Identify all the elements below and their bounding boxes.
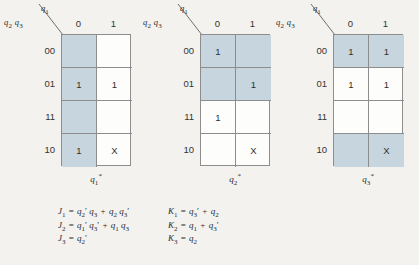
k-equation: K2 = q1 + q3′ — [168, 219, 219, 233]
column-header: 0 — [333, 18, 368, 29]
row-header: 10 — [29, 133, 55, 166]
j-equation-column: J1 = q2′ q3 + q2 q3′J2 = q1′ q3′ + q1 q3… — [58, 205, 129, 246]
axis-corner-cell: q2 q3q1 — [3, 2, 63, 34]
column-header: 1 — [368, 18, 403, 29]
k-equation-column: K1 = q3′ + q2K2 = q1 + q3′K3 = q2 — [168, 205, 219, 246]
kmap-cell: 1 — [97, 68, 132, 101]
column-variable-label: q1 — [180, 3, 188, 16]
row-header: 11 — [301, 100, 327, 133]
karnaugh-map-grid: 1111X — [333, 34, 403, 166]
kmap-cell — [334, 101, 369, 134]
row-header: 11 — [29, 100, 55, 133]
kmap-caption: q3* — [332, 172, 404, 187]
kmap-caption: q1* — [60, 172, 132, 187]
j-equation: J3 = q2′ — [58, 232, 129, 246]
karnaugh-map-grid: 111X — [200, 34, 270, 166]
kmap-cell — [201, 134, 236, 167]
row-variable-label: q2 q3 — [4, 17, 23, 30]
kmap-cell: 1 — [236, 68, 271, 101]
axis-corner-cell: q2 q3q1 — [142, 2, 202, 34]
kmap-cell — [62, 101, 97, 134]
kmap-cell — [236, 35, 271, 68]
kmap-cell: X — [97, 134, 132, 167]
kmap-cell — [62, 35, 97, 68]
column-header: 0 — [61, 18, 96, 29]
kmap-cell — [334, 134, 369, 167]
kmap-cell: 1 — [334, 68, 369, 101]
row-variable-label: q2 q3 — [276, 17, 295, 30]
column-variable-label: q1 — [41, 3, 49, 16]
karnaugh-map-grid: 111X — [61, 34, 131, 166]
row-header: 00 — [301, 34, 327, 67]
kmap-cell — [369, 101, 404, 134]
kmap-figure: q2 q3q10100011110111Xq1*q2 q3q1010001111… — [0, 0, 419, 265]
row-header: 10 — [301, 133, 327, 166]
kmap-caption: q2* — [199, 172, 271, 187]
kmap-cell: 1 — [369, 35, 404, 68]
kmap-cell: 1 — [201, 101, 236, 134]
k-equation: K1 = q3′ + q2 — [168, 205, 219, 219]
row-header: 11 — [168, 100, 194, 133]
kmap-cell: 1 — [62, 68, 97, 101]
column-header: 0 — [200, 18, 235, 29]
k-equation: K3 = q2 — [168, 232, 219, 246]
row-header: 00 — [29, 34, 55, 67]
j-equation: J1 = q2′ q3 + q2 q3′ — [58, 205, 129, 219]
kmap-cell: 1 — [334, 35, 369, 68]
column-header: 1 — [235, 18, 270, 29]
kmap-cell: 1 — [369, 68, 404, 101]
row-variable-label: q2 q3 — [143, 17, 162, 30]
row-header: 10 — [168, 133, 194, 166]
column-variable-label: q1 — [313, 3, 321, 16]
kmap-cell: X — [369, 134, 404, 167]
row-header: 01 — [301, 67, 327, 100]
row-header: 01 — [29, 67, 55, 100]
kmap-cell: 1 — [201, 35, 236, 68]
row-header: 00 — [168, 34, 194, 67]
kmap-cell — [201, 68, 236, 101]
column-header: 1 — [96, 18, 131, 29]
kmap-cell — [97, 101, 132, 134]
kmap-cell — [236, 101, 271, 134]
kmap-cell: X — [236, 134, 271, 167]
row-header: 01 — [168, 67, 194, 100]
kmap-cell — [97, 35, 132, 68]
j-equation: J2 = q1′ q3′ + q1 q3 — [58, 219, 129, 233]
kmap-cell: 1 — [62, 134, 97, 167]
axis-corner-cell: q2 q3q1 — [275, 2, 335, 34]
